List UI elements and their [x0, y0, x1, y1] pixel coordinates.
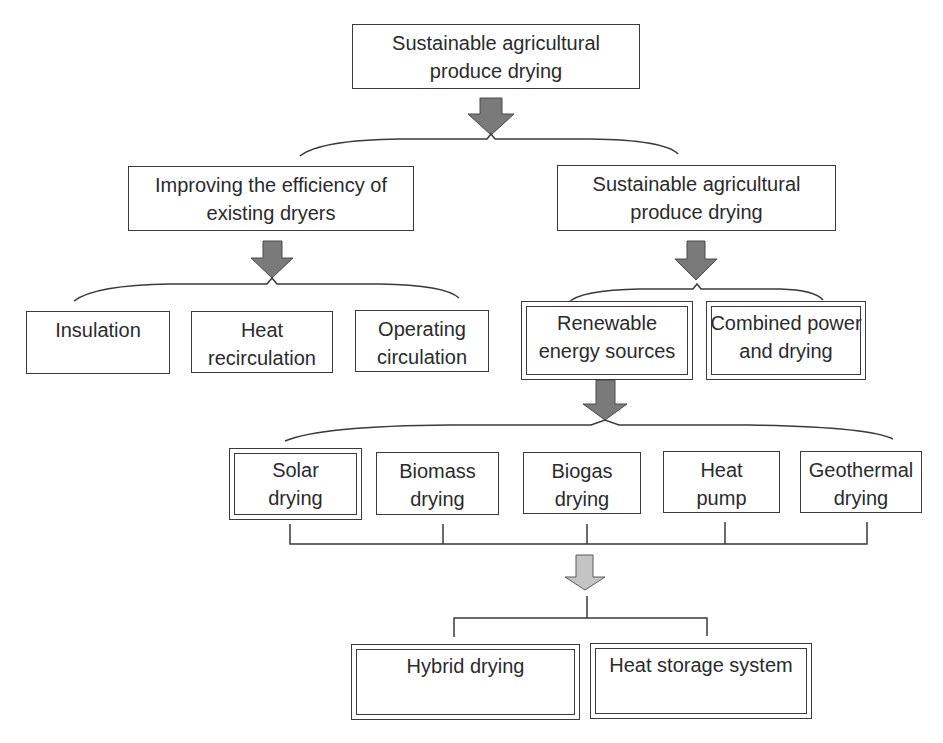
down-arrow-light-icon	[565, 555, 605, 590]
node-inner-frame: Combined power and drying	[711, 306, 861, 375]
root-node: Sustainable agricultural produce drying	[352, 24, 640, 89]
node-inner-frame: Solar drying	[234, 453, 357, 515]
node-label-line: drying	[268, 484, 322, 512]
node-label-line: Combined power	[710, 309, 861, 337]
node-geothermal-drying: Geothermal drying	[800, 451, 922, 513]
node-label-line: Renewable	[557, 309, 657, 337]
node-label-line: drying	[410, 485, 464, 513]
node-label-line: Heat storage system	[609, 651, 792, 679]
node-biomass-drying: Biomass drying	[376, 452, 499, 515]
node-label-line: recirculation	[208, 344, 316, 372]
node-hybrid-drying: Hybrid drying	[351, 644, 580, 720]
brace-level2-left	[74, 278, 459, 301]
node-label-line: existing dryers	[207, 199, 336, 227]
join-bracket-level3	[290, 522, 867, 544]
node-operating-circulation: Operating circulation	[355, 310, 489, 372]
down-arrow-icon	[468, 98, 514, 135]
node-label-line: pump	[696, 484, 746, 512]
node-label-line: Heat	[700, 456, 742, 484]
node-sustainable-drying: Sustainable agricultural produce drying	[557, 165, 836, 231]
node-label-line: Solar	[272, 456, 319, 484]
node-heat-recirculation: Heat recirculation	[191, 311, 333, 373]
node-label-line: Geothermal	[809, 456, 914, 484]
down-arrow-icon	[583, 380, 627, 420]
node-label-line: Insulation	[55, 316, 141, 344]
node-label-line: Sustainable agricultural	[392, 29, 600, 57]
node-label-line: Hybrid drying	[407, 652, 525, 680]
node-label-line: drying	[834, 484, 888, 512]
node-heat-pump: Heat pump	[663, 451, 780, 513]
node-label-line: circulation	[377, 343, 467, 371]
brace-level1	[300, 134, 678, 156]
node-inner-frame: Renewable energy sources	[526, 306, 688, 375]
join-bracket-level4	[454, 596, 707, 637]
node-heat-storage-system: Heat storage system	[590, 643, 812, 719]
node-improving-efficiency: Improving the efficiency of existing dry…	[128, 166, 414, 231]
node-biogas-drying: Biogas drying	[523, 452, 641, 514]
node-renewable-energy: Renewable energy sources	[521, 301, 693, 380]
node-label-line: Improving the efficiency of	[155, 171, 387, 199]
node-label-line: Heat	[241, 316, 283, 344]
diagram-canvas: Sustainable agricultural produce drying …	[0, 0, 943, 743]
down-arrow-icon	[251, 241, 293, 278]
node-label-line: Biomass	[399, 457, 476, 485]
node-combined-power: Combined power and drying	[706, 301, 866, 380]
node-solar-drying: Solar drying	[229, 448, 362, 520]
node-label-line: produce drying	[630, 198, 762, 226]
down-arrow-icon	[675, 241, 717, 280]
node-inner-frame: Heat storage system	[595, 648, 807, 714]
node-insulation: Insulation	[26, 311, 170, 374]
node-inner-frame: Hybrid drying	[356, 649, 575, 715]
node-label-line: Operating	[378, 315, 466, 343]
node-label-line: energy sources	[539, 337, 676, 365]
node-label-line: and drying	[739, 337, 832, 365]
node-label-line: produce drying	[430, 57, 562, 85]
brace-level3	[285, 420, 893, 441]
node-label-line: Sustainable agricultural	[593, 170, 801, 198]
node-label-line: Biogas	[551, 457, 612, 485]
node-label-line: drying	[555, 485, 609, 513]
